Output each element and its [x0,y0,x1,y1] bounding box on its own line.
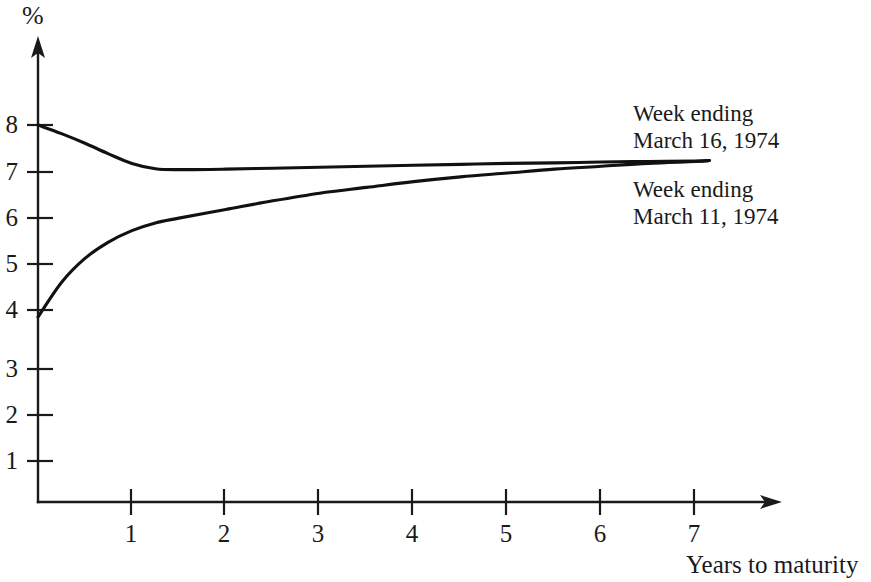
x-tick-label-3: 3 [304,521,332,546]
x-tick-label-2: 2 [210,521,238,546]
x-tick-label-4: 4 [398,521,426,546]
series-label-march-11-line2: March 11, 1974 [633,203,778,230]
y-tick-label-2: 2 [0,402,18,427]
x-axis-title: Years to maturity [686,551,858,578]
series-line-march-16 [38,125,709,170]
x-tick-label-5: 5 [492,521,520,546]
y-tick-label-7: 7 [0,159,18,184]
y-tick-label-3: 3 [0,356,18,381]
y-tick-label-5: 5 [0,251,18,276]
series-label-march-16: Week ending March 16, 1974 [633,100,779,154]
series-label-march-16-line2: March 16, 1974 [633,127,779,154]
series-label-march-11-line1: Week ending [633,176,778,203]
x-tick-label-1: 1 [117,521,145,546]
y-tick-label-1: 1 [0,448,18,473]
y-tick-label-4: 4 [0,297,18,322]
x-tick-label-7: 7 [680,521,708,546]
y-tick-label-6: 6 [0,205,18,230]
y-axis-title: % [22,2,44,29]
y-axis-ticks [27,125,53,461]
yield-curve-chart: % Years to maturity 8 7 6 5 4 3 2 1 1 2 … [0,0,871,582]
series-label-march-16-line1: Week ending [633,100,779,127]
x-tick-label-6: 6 [586,521,614,546]
y-tick-label-8: 8 [0,112,18,137]
series-line-march-11 [38,161,709,317]
series-label-march-11: Week ending March 11, 1974 [633,176,778,230]
chart-plot-area [0,0,871,582]
